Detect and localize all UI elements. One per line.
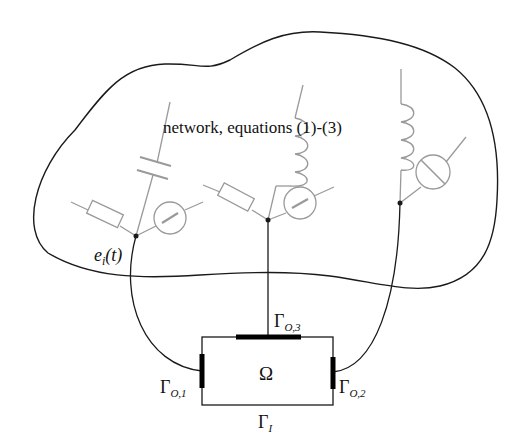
current-source-bar [421,160,445,184]
source-lead-out [185,202,203,210]
inductor-lead-bottom [400,170,401,203]
network-region-outline [34,32,498,289]
network-label: network, equations (1)-(3) [163,118,342,137]
circuit-field-coupling-diagram: network, equations (1)-(3) ei(t) Ω ΓO,3 … [0,0,524,448]
source-lead-out [446,137,466,162]
wire-node3-to-gamma-o2 [333,203,400,372]
resistor-lead-right [252,210,268,220]
wire-node1-to-gamma-o1 [130,236,202,371]
gamma-i-label: ΓI [258,412,273,434]
inductor-lead-top [295,85,303,118]
capacitor-lead-bottom [136,175,153,236]
resistor-icon [87,200,124,227]
current-source-arrow [292,199,308,208]
source-lead-in [268,213,286,220]
resistor-lead-left [71,202,88,210]
branch-2 [203,85,334,220]
coupling-wires [130,203,400,372]
source-lead-out [314,187,334,196]
current-source-arrow [162,213,178,223]
inductor-lead-bottom [268,186,276,220]
resistor-lead-left [203,185,220,192]
gamma-o2-label: ΓO,2 [339,377,366,399]
branch-3 [400,69,466,203]
capacitor-plate-top [140,157,171,166]
omega-label: Ω [259,363,273,384]
gamma-o1-label: ΓO,1 [160,377,187,399]
inductor-icon [401,104,414,170]
resistor-lead-right [120,226,136,236]
resistor-icon [218,183,255,211]
source-lead-in [400,187,421,203]
node-voltage-label: ei(t) [94,245,122,268]
gamma-o3-label: ΓO,3 [274,311,301,333]
